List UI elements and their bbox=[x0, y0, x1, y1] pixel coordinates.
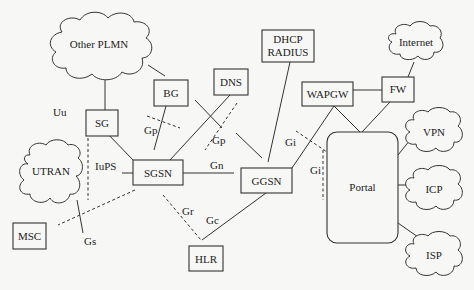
label-gp-1: Gp bbox=[144, 124, 158, 136]
svg-text:DHCP: DHCP bbox=[273, 33, 302, 45]
edge-dns-ggsn-2 bbox=[236, 133, 262, 158]
label-uu: Uu bbox=[53, 106, 67, 118]
svg-text:FW: FW bbox=[390, 83, 407, 95]
label-gc: Gc bbox=[206, 214, 219, 226]
node-dhcp-radius: DHCP RADIUS bbox=[262, 30, 314, 62]
cloud-other-plmn: Other PLMN bbox=[50, 12, 151, 80]
node-hlr: HLR bbox=[189, 246, 223, 271]
node-portal: Portal bbox=[327, 132, 398, 243]
node-ggsn: GGSN bbox=[241, 168, 292, 193]
svg-text:GGSN: GGSN bbox=[252, 175, 282, 187]
node-sgsn: SGSN bbox=[133, 160, 183, 185]
label-gi-1: Gi bbox=[285, 136, 296, 148]
cloud-internet: Internet bbox=[389, 22, 443, 60]
svg-text:SG: SG bbox=[95, 117, 109, 129]
svg-text:MSC: MSC bbox=[18, 230, 41, 242]
label-gi-2: Gi bbox=[310, 164, 321, 176]
node-wapgw: WAPGW bbox=[302, 82, 353, 106]
label-internet: Internet bbox=[399, 36, 433, 48]
svg-text:SGSN: SGSN bbox=[144, 167, 172, 179]
edge-wapgw-portal bbox=[334, 106, 360, 132]
node-msc: MSC bbox=[13, 223, 46, 249]
label-gr: Gr bbox=[182, 205, 194, 217]
node-bg: BG bbox=[154, 80, 188, 106]
svg-text:Portal: Portal bbox=[349, 181, 375, 193]
dashed-gi-cut-1 bbox=[296, 131, 327, 152]
edge-portal-isp bbox=[398, 223, 418, 237]
edge-plmn-bg bbox=[148, 65, 165, 76]
label-iups: IuPS bbox=[95, 160, 116, 172]
edge-fw-portal bbox=[362, 102, 390, 132]
svg-text:BG: BG bbox=[163, 87, 178, 99]
label-icp: ICP bbox=[425, 183, 442, 195]
network-diagram: Other PLMN Internet VPN ICP ISP UTRAN BG… bbox=[0, 0, 474, 290]
label-utran: UTRAN bbox=[32, 165, 70, 177]
node-sg: SG bbox=[86, 110, 118, 136]
svg-text:WAPGW: WAPGW bbox=[307, 88, 349, 100]
label-gp-2: Gp bbox=[212, 134, 226, 146]
label-gn: Gn bbox=[210, 159, 224, 171]
svg-text:RADIUS: RADIUS bbox=[268, 46, 309, 58]
cloud-utran: UTRAN bbox=[20, 140, 83, 203]
label-vpn: VPN bbox=[423, 126, 445, 138]
node-fw: FW bbox=[382, 77, 414, 102]
dashed-sgsn-hlr bbox=[163, 195, 201, 240]
node-dns: DNS bbox=[214, 69, 248, 95]
label-isp: ISP bbox=[426, 249, 442, 261]
cloud-vpn: VPN bbox=[406, 108, 463, 152]
label-gs: Gs bbox=[84, 235, 96, 247]
edge-fw-internet bbox=[408, 62, 414, 77]
label-other-plmn: Other PLMN bbox=[70, 38, 128, 50]
svg-text:HLR: HLR bbox=[195, 253, 218, 265]
svg-text:DNS: DNS bbox=[220, 76, 242, 88]
cloud-isp: ISP bbox=[406, 232, 463, 276]
edge-dns-ggsn-1 bbox=[195, 100, 222, 128]
cloud-icp: ICP bbox=[406, 166, 463, 210]
